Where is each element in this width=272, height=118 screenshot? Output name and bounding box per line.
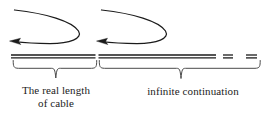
arrow-left-curve: [14, 10, 79, 44]
cable-right: [99, 55, 217, 58]
label-real-length-line1: The real length: [0, 84, 112, 97]
cable-left: [11, 55, 96, 58]
label-real-length: The real length of cable: [0, 84, 112, 110]
label-real-length-line2: of cable: [0, 97, 112, 110]
cable-length-diagram: The real length of cable infinite contin…: [0, 0, 272, 118]
arrow-left-group: [10, 10, 80, 45]
brace-left: [13, 61, 97, 79]
label-infinite-continuation-line1: infinite continuation: [118, 85, 268, 98]
arrow-right-group: [97, 10, 167, 45]
arrow-right-head-icon: [97, 38, 108, 44]
brace-right: [99, 61, 260, 79]
continuation-dash-2: [246, 55, 257, 58]
continuation-dash-1: [223, 55, 233, 58]
label-infinite-continuation: infinite continuation: [118, 85, 268, 98]
arrow-right-curve: [101, 10, 166, 44]
arrow-left-head-icon: [10, 38, 21, 44]
